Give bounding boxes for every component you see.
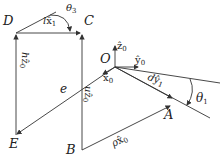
- label-c: C: [84, 14, 94, 27]
- line-oe: [17, 67, 115, 134]
- theta1-arc: [187, 79, 192, 105]
- label-lx1: lx̂1: [43, 16, 56, 28]
- label-e-point: E: [9, 137, 19, 150]
- label-x0: x̂0: [103, 73, 113, 85]
- label-hz0: hẑ0: [18, 52, 30, 68]
- label-b: B: [66, 143, 76, 156]
- label-d: D: [3, 14, 13, 27]
- label-a: A: [164, 108, 173, 121]
- label-y0: ŷ0: [135, 55, 145, 67]
- label-e: e: [60, 83, 67, 95]
- label-uz0: uẑ0: [81, 86, 93, 102]
- label-theta1: θ1: [196, 92, 208, 106]
- label-o: O: [100, 52, 111, 65]
- label-theta3: θ3: [66, 3, 77, 15]
- label-z0: ẑ0: [117, 41, 127, 53]
